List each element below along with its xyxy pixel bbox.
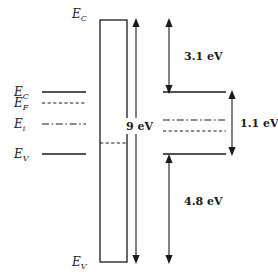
right-semiconductor-group: [163, 92, 226, 154]
annotation-valence-offset: 4.8 eV: [165, 154, 223, 264]
oxide-gap-arrow-head-down: [132, 255, 139, 264]
annotation-semiconductor-bandgap: 1.1 eV: [228, 90, 278, 156]
left-ev-label: EV: [13, 147, 30, 163]
valence-offset-label: 4.8 eV: [184, 195, 223, 208]
oxide-ec-label: EC: [71, 7, 87, 23]
oxide-gap-label: 9 eV: [126, 120, 153, 133]
left-semiconductor-group: EC EF Ei EV: [13, 85, 86, 163]
bandgap-arrow-head-down: [228, 147, 235, 156]
oxide-barrier-group: EC EV: [71, 7, 127, 271]
bandgap-arrow-head-up: [228, 90, 235, 99]
oxide-barrier-rect: [100, 20, 127, 262]
valence-offset-arrow-head-down: [165, 255, 172, 264]
band-diagram-canvas: EC EF Ei EV EC EV 9 eV: [0, 0, 278, 276]
annotation-oxide-gap: 9 eV: [125, 18, 153, 264]
bandgap-label: 1.1 eV: [240, 117, 278, 130]
conduction-offset-label: 3.1 eV: [184, 50, 223, 63]
left-ei-label: Ei: [13, 117, 26, 133]
conduction-offset-arrow-head-up: [165, 18, 172, 27]
oxide-ev-label: EV: [71, 255, 88, 271]
energy-band-diagram: EC EF Ei EV EC EV 9 eV: [0, 0, 278, 276]
annotation-conduction-offset: 3.1 eV: [165, 18, 223, 94]
valence-offset-arrow-head-up: [165, 154, 172, 163]
oxide-gap-arrow-head-up: [132, 18, 139, 27]
